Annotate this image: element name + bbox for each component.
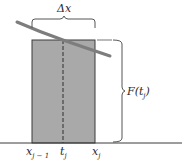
x-right-label: xj bbox=[92, 145, 101, 160]
height-label: F(tj) bbox=[126, 85, 150, 100]
t-mid-label: tj bbox=[60, 145, 67, 160]
delta-x-label: Δx bbox=[56, 2, 72, 15]
height-brace bbox=[113, 40, 125, 142]
riemann-rectangle-diagram: Δx F(tj) xj − 1 tj xj bbox=[0, 0, 182, 160]
x-left-label: xj − 1 bbox=[26, 145, 49, 160]
delta-x-brace bbox=[32, 16, 95, 28]
